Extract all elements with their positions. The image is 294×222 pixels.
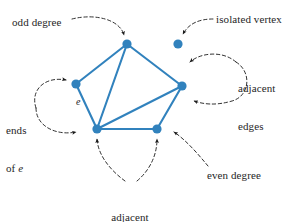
annotation-isolated-vertex: isolated vertex: [216, 13, 282, 26]
leader-odd-degree: [72, 17, 124, 35]
annotation-odd-degree: odd degree: [12, 16, 62, 29]
annotation-adjacent-edges: adjacent edges: [238, 57, 275, 157]
vertex-bottom-right: [152, 124, 161, 133]
vertex-isolated: [173, 39, 182, 48]
leader-adjacent-vertices-left: [97, 139, 125, 181]
annotation-adjacent-vertices-line1: adjacent: [80, 211, 180, 222]
vertex-right: [177, 81, 186, 90]
leader-adjacent-vertices-right: [137, 139, 157, 181]
edge-label-e: e: [76, 96, 80, 107]
leader-isolated-vertex: [183, 19, 213, 34]
edge-e4: [127, 44, 182, 86]
graph-edges: [76, 44, 182, 129]
leader-ends-of-e-loop: [36, 108, 76, 133]
annotation-ends-of-e-line1: ends: [6, 124, 27, 137]
vertex-bottom-left: [92, 124, 101, 133]
vertex-left: [71, 79, 80, 88]
annotation-adjacent-vertices: adjacent vertices: [80, 186, 180, 222]
graph-theory-figure: odd degree isolated vertex adjacent edge…: [0, 0, 294, 222]
annotation-ends-of-e: ends of e: [6, 99, 27, 199]
leader-adjacent-edges-upper: [190, 54, 236, 62]
annotation-adjacent-edges-line1: adjacent: [238, 82, 275, 95]
annotation-leaders: [35, 17, 247, 181]
leader-even-degree: [174, 132, 208, 166]
annotation-ends-of-e-line2-text: of: [6, 162, 18, 174]
annotation-ends-of-e-line2-var: e: [18, 162, 23, 174]
graph-vertices: [71, 39, 186, 133]
annotation-even-degree: even degree: [207, 169, 261, 182]
annotation-adjacent-edges-line2: edges: [238, 120, 275, 133]
annotation-ends-of-e-line2: of e: [6, 162, 27, 175]
vertex-top: [122, 39, 131, 48]
leader-ends-of-e-upper: [35, 79, 66, 108]
